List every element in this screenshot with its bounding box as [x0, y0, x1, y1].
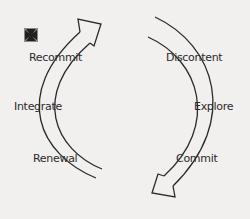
- cycle-diagram: Recommit Integrate Renewal Discontent Ex…: [0, 0, 250, 219]
- label-commit: Commit: [176, 153, 217, 165]
- label-recommit: Recommit: [29, 52, 82, 64]
- label-renewal: Renewal: [33, 153, 77, 165]
- cross-pattee-icon: [24, 28, 38, 42]
- label-integrate: Integrate: [14, 101, 62, 113]
- label-explore: Explore: [194, 101, 233, 113]
- label-discontent: Discontent: [166, 52, 222, 64]
